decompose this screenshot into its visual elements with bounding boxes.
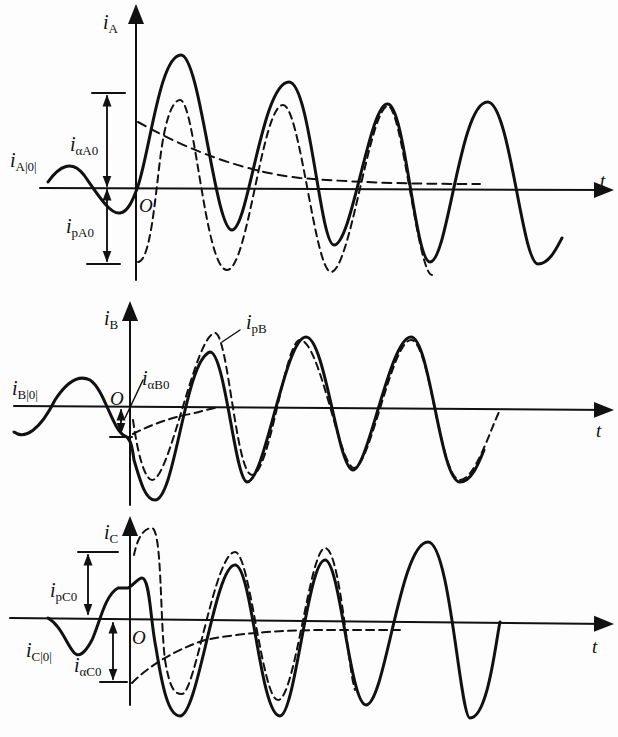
ib-periodic-label: ipB: [246, 312, 267, 335]
ia-axis-label: iA: [103, 12, 118, 35]
ic-axis-label: iC: [104, 522, 118, 545]
ib-dc-component: [133, 408, 215, 434]
ia-total-curve: [48, 55, 562, 264]
ib-dc-label: iαB0: [142, 368, 170, 391]
panel-a: [40, 8, 610, 280]
t-axis-a: [40, 188, 610, 190]
ia-dc-label: iαA0: [70, 134, 98, 157]
ia-periodic-label: ipA0: [66, 216, 94, 239]
ib-prefault-label: iB|0|: [12, 378, 38, 401]
panel-b: [14, 305, 610, 505]
ib-axis-label: iB: [104, 308, 118, 331]
ic-periodic-component: [134, 528, 355, 700]
t-axis-b: [14, 406, 610, 410]
ic-origin-label: O: [132, 627, 146, 649]
ib-origin-label: O: [110, 388, 124, 410]
waveform-canvas: [0, 0, 618, 737]
ib-total-curve: [14, 337, 484, 500]
short-circuit-current-diagram: iA iA|0| iαA0 ipA0 O t iB iB|0| iαB0 ipB…: [0, 0, 618, 737]
ic-periodic-label: ipC0: [50, 580, 77, 603]
ib-t-label: t: [596, 420, 601, 442]
ia-t-label: t: [600, 170, 605, 192]
ia-origin-label: O: [139, 195, 153, 217]
panel-c: [10, 520, 610, 718]
ic-prefault-label: iC|0|: [26, 640, 52, 663]
ic-dc-label: iαC0: [74, 655, 102, 678]
ia-prefault-label: iA|0|: [10, 150, 37, 173]
ic-total-curve: [48, 542, 500, 718]
ic-t-label: t: [592, 636, 597, 658]
